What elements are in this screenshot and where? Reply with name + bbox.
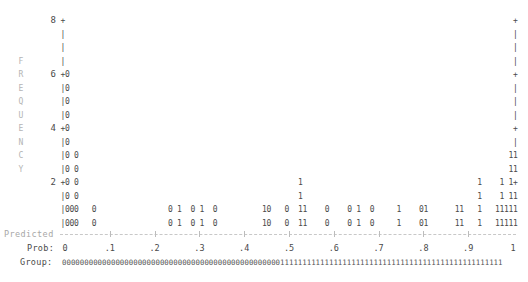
predicted-axis-line — [60, 228, 516, 241]
y-tick-label: 2 — [46, 176, 56, 189]
y-axis-letter: E — [17, 82, 25, 95]
histogram-row: |0 | — [61, 95, 518, 108]
histogram-row: +0 + — [61, 122, 518, 135]
prob-tick-label: .5 — [284, 242, 294, 255]
axis-tick — [334, 231, 335, 237]
group-string: 0000000000000000000000000000000000000000… — [62, 256, 503, 269]
prob-tick-label: .4 — [239, 242, 249, 255]
group-label: Group: — [20, 256, 53, 269]
histogram-row: + + — [61, 14, 518, 27]
prob-tick-label: 0 — [62, 242, 67, 255]
prob-label: Prob: — [27, 242, 54, 255]
y-axis-letter: U — [17, 109, 25, 122]
y-tick-label: 6 — [46, 68, 56, 81]
axis-tick — [155, 231, 156, 237]
y-axis-letter: R — [17, 68, 25, 81]
axis-tick — [110, 231, 111, 237]
histogram-row: |0 | — [61, 136, 518, 149]
predicted-label: Predicted — [4, 228, 54, 241]
histogram-row: +0 + — [61, 68, 518, 81]
prob-tick-label: .2 — [149, 242, 159, 255]
histogram-row: |0 0 11 — [61, 163, 518, 176]
histogram-row: | | — [61, 55, 518, 68]
y-axis-letter: E — [17, 122, 25, 135]
histogram-row: |0 0 1 1 1 11 — [61, 190, 518, 203]
y-axis-letter: Y — [17, 163, 25, 176]
histogram-row: | | — [61, 41, 518, 54]
axis-tick — [244, 231, 245, 237]
axis-tick — [289, 231, 290, 237]
histogram-row: |000 0 0 1 0 1 0 10 0 11 0 0 1 0 1 01 11… — [61, 203, 518, 216]
axis-dash-line — [60, 234, 516, 235]
prob-tick-label: .1 — [105, 242, 115, 255]
y-axis-letter: N — [17, 136, 25, 149]
prob-tick-label: .3 — [194, 242, 204, 255]
y-axis-letter: C — [17, 149, 25, 162]
prob-tick-label: .8 — [418, 242, 428, 255]
axis-tick — [379, 231, 380, 237]
histogram-row: |0 | — [61, 109, 518, 122]
histogram-row: | | — [61, 28, 518, 41]
y-axis-letter: Q — [17, 95, 25, 108]
y-axis-letter: F — [17, 55, 25, 68]
prob-tick-label: 1 — [510, 242, 515, 255]
histogram-row: |0 0 11 — [61, 149, 518, 162]
prob-tick-label: .9 — [463, 242, 473, 255]
axis-tick — [423, 231, 424, 237]
y-tick-label: 4 — [46, 122, 56, 135]
axis-tick — [468, 231, 469, 237]
prob-tick-label: .6 — [329, 242, 339, 255]
histogram-row: |0 | — [61, 82, 518, 95]
prob-tick-label: .7 — [373, 242, 383, 255]
axis-tick — [199, 231, 200, 237]
histogram-row: +0 0 1 1 1 1+ — [61, 176, 518, 189]
y-tick-label: 8 — [46, 14, 56, 27]
